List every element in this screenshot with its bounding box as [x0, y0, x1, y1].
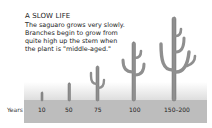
cactus-150-200-years-icon: [161, 17, 195, 101]
years-axis-label: Years: [7, 106, 23, 113]
stage-label-10: 10: [38, 106, 46, 113]
cactus-50-years-icon: [68, 83, 71, 101]
stage-label-75: 75: [94, 106, 102, 113]
stage-label-100: 100: [129, 106, 140, 113]
cactus-10-years-icon: [41, 92, 43, 101]
stage-label-50: 50: [65, 106, 73, 113]
cactus-100-years-icon: [123, 42, 144, 101]
cactus-75-years-icon: [91, 66, 104, 101]
stage-label-150-200: 150–200: [164, 106, 190, 113]
